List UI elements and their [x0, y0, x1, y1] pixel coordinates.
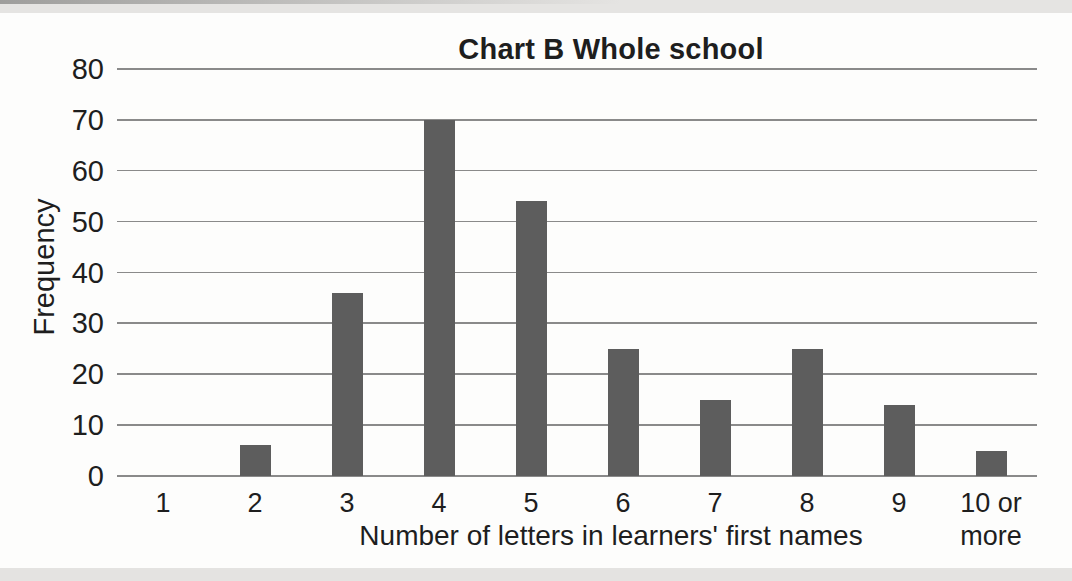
gridline-70: [117, 119, 1037, 121]
y-tick-label-10: 10: [72, 411, 104, 440]
x-tick-label-9: 9: [853, 487, 945, 520]
gridline-40: [117, 272, 1037, 274]
gridline-20: [117, 373, 1037, 375]
x-tick-label-3: 3: [301, 487, 393, 520]
y-tick-label-20: 20: [72, 360, 104, 389]
scanned-book-page: Chart B Whole school Frequency 010203040…: [0, 0, 1072, 581]
page-bottom-strip: [0, 568, 1072, 581]
bar-6: [608, 349, 639, 476]
x-tick-label-4: 4: [393, 487, 485, 520]
y-tick-label-40: 40: [72, 258, 104, 287]
bar-2: [240, 445, 271, 476]
x-tick-label-8: 8: [761, 487, 853, 520]
plot-area: [117, 69, 1037, 476]
y-tick-label-0: 0: [88, 462, 104, 491]
x-tick-label-2: 2: [209, 487, 301, 520]
bar-10-or-more: [976, 451, 1007, 476]
y-axis-tick-labels: 01020304050607080: [0, 69, 104, 476]
x-tick-label-6: 6: [577, 487, 669, 520]
x-tick-label-5: 5: [485, 487, 577, 520]
bar-9: [884, 405, 915, 476]
x-tick-label-1: 1: [117, 487, 209, 520]
bar-8: [792, 349, 823, 476]
y-tick-label-60: 60: [72, 156, 104, 185]
gridline-30: [117, 322, 1037, 324]
bar-7: [700, 400, 731, 476]
gridline-60: [117, 170, 1037, 172]
bar-3: [332, 293, 363, 476]
x-tick-label-7: 7: [669, 487, 761, 520]
gridline-50: [117, 221, 1037, 223]
gridline-80: [117, 68, 1037, 70]
y-tick-label-70: 70: [72, 105, 104, 134]
bar-5: [516, 201, 547, 476]
y-tick-label-50: 50: [72, 207, 104, 236]
y-tick-label-30: 30: [72, 309, 104, 338]
x-axis-title: Number of letters in learners' first nam…: [359, 520, 862, 552]
x-tick-label-10-or-more: 10 or more: [945, 487, 1037, 553]
bar-4: [424, 120, 455, 476]
y-tick-label-80: 80: [72, 55, 104, 84]
page-top-strip: [0, 0, 1072, 13]
chart-title: Chart B Whole school: [458, 33, 763, 66]
